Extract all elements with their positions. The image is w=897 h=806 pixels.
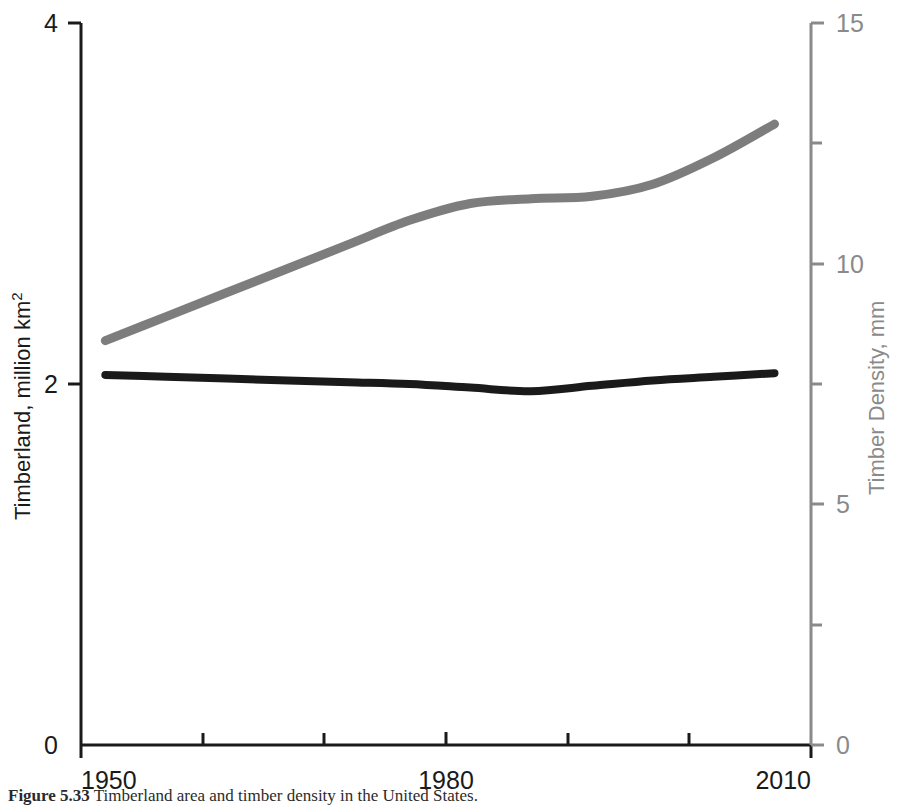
right-axis-group: 15 10 5 0 xyxy=(811,9,864,759)
series-group xyxy=(105,124,774,391)
right-axis-tick-label-15: 15 xyxy=(836,9,864,37)
left-axis-tick-label-0: 0 xyxy=(44,731,58,759)
figure-caption: Figure 5.33 Timberland area and timber d… xyxy=(8,786,897,806)
left-axis-title-text: Timberland, million km xyxy=(10,301,35,520)
figure-caption-label: Figure 5.33 xyxy=(8,786,90,805)
bottom-axis-group: 1950 1980 2010 xyxy=(81,732,811,794)
right-axis-tick-label-10: 10 xyxy=(836,250,864,278)
left-axis-title: Timberland, million km2 xyxy=(8,292,35,520)
left-axis-tick-label-4: 4 xyxy=(44,9,58,37)
right-axis-tick-label-5: 5 xyxy=(836,490,850,518)
right-axis-title: Timber Density, mm xyxy=(864,301,889,495)
left-axis-title-group: Timberland, million km2 xyxy=(8,292,35,520)
right-axis-title-group: Timber Density, mm xyxy=(864,301,889,495)
left-axis-group: 4 2 0 xyxy=(44,9,81,759)
series-line-timber-density xyxy=(105,124,774,341)
left-axis-tick-label-2: 2 xyxy=(44,370,58,398)
figure-caption-text: Timberland area and timber density in th… xyxy=(94,786,478,805)
series-line-timberland xyxy=(105,373,774,391)
left-axis-title-superscript: 2 xyxy=(8,292,25,300)
right-axis-tick-label-0: 0 xyxy=(836,731,850,759)
